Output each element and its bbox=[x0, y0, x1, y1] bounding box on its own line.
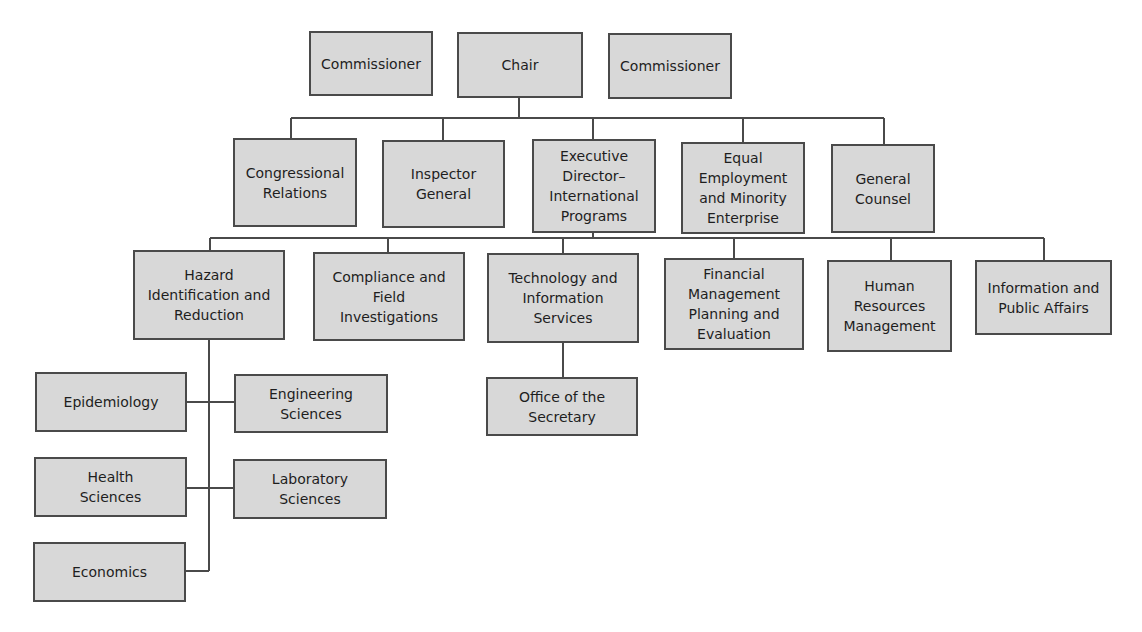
box-label: Technology and Information Services bbox=[508, 268, 617, 328]
box-label: Information and Public Affairs bbox=[988, 278, 1100, 318]
box-label: Health Sciences bbox=[80, 467, 142, 507]
box-label: Equal Employment and Minority Enterprise bbox=[699, 148, 788, 228]
org-chart: Commissioner Chair Commissioner Congress… bbox=[0, 0, 1142, 632]
box-label: Human Resources Management bbox=[843, 276, 935, 336]
box-label: Compliance and Field Investigations bbox=[332, 267, 445, 327]
box-epidemiology: Epidemiology bbox=[35, 372, 187, 432]
box-label: Inspector General bbox=[411, 164, 476, 204]
box-human-resources: Human Resources Management bbox=[827, 260, 952, 352]
box-label: Financial Management Planning and Evalua… bbox=[688, 264, 780, 344]
box-economics: Economics bbox=[33, 542, 186, 602]
box-label: Chair bbox=[502, 55, 539, 75]
box-label: Engineering Sciences bbox=[269, 384, 353, 424]
box-label: Commissioner bbox=[321, 54, 421, 74]
box-inspector-general: Inspector General bbox=[382, 140, 505, 228]
box-engineering-sciences: Engineering Sciences bbox=[234, 374, 388, 433]
box-label: General Counsel bbox=[855, 169, 911, 209]
box-financial-management: Financial Management Planning and Evalua… bbox=[664, 258, 804, 350]
box-commissioner-right: Commissioner bbox=[608, 33, 732, 99]
box-label: Executive Director– International Progra… bbox=[549, 146, 638, 226]
box-label: Epidemiology bbox=[64, 392, 159, 412]
box-health-sciences: Health Sciences bbox=[34, 457, 187, 517]
box-general-counsel: General Counsel bbox=[831, 144, 935, 233]
box-compliance: Compliance and Field Investigations bbox=[313, 252, 465, 341]
box-label: Hazard Identification and Reduction bbox=[148, 265, 271, 325]
box-hazard-identification: Hazard Identification and Reduction bbox=[133, 250, 285, 340]
box-executive-director: Executive Director– International Progra… bbox=[532, 139, 656, 233]
box-label: Office of the Secretary bbox=[519, 387, 605, 427]
box-label: Laboratory Sciences bbox=[272, 469, 348, 509]
box-technology: Technology and Information Services bbox=[487, 253, 639, 343]
box-label: Congressional Relations bbox=[246, 163, 345, 203]
box-equal-employment: Equal Employment and Minority Enterprise bbox=[681, 142, 805, 234]
box-laboratory-sciences: Laboratory Sciences bbox=[233, 459, 387, 519]
box-commissioner-left: Commissioner bbox=[309, 31, 433, 96]
box-congressional-relations: Congressional Relations bbox=[233, 138, 357, 227]
box-label: Economics bbox=[72, 562, 147, 582]
box-office-of-the-secretary: Office of the Secretary bbox=[486, 377, 638, 436]
box-information-public-affairs: Information and Public Affairs bbox=[975, 260, 1112, 335]
box-chair: Chair bbox=[457, 32, 583, 98]
box-label: Commissioner bbox=[620, 56, 720, 76]
